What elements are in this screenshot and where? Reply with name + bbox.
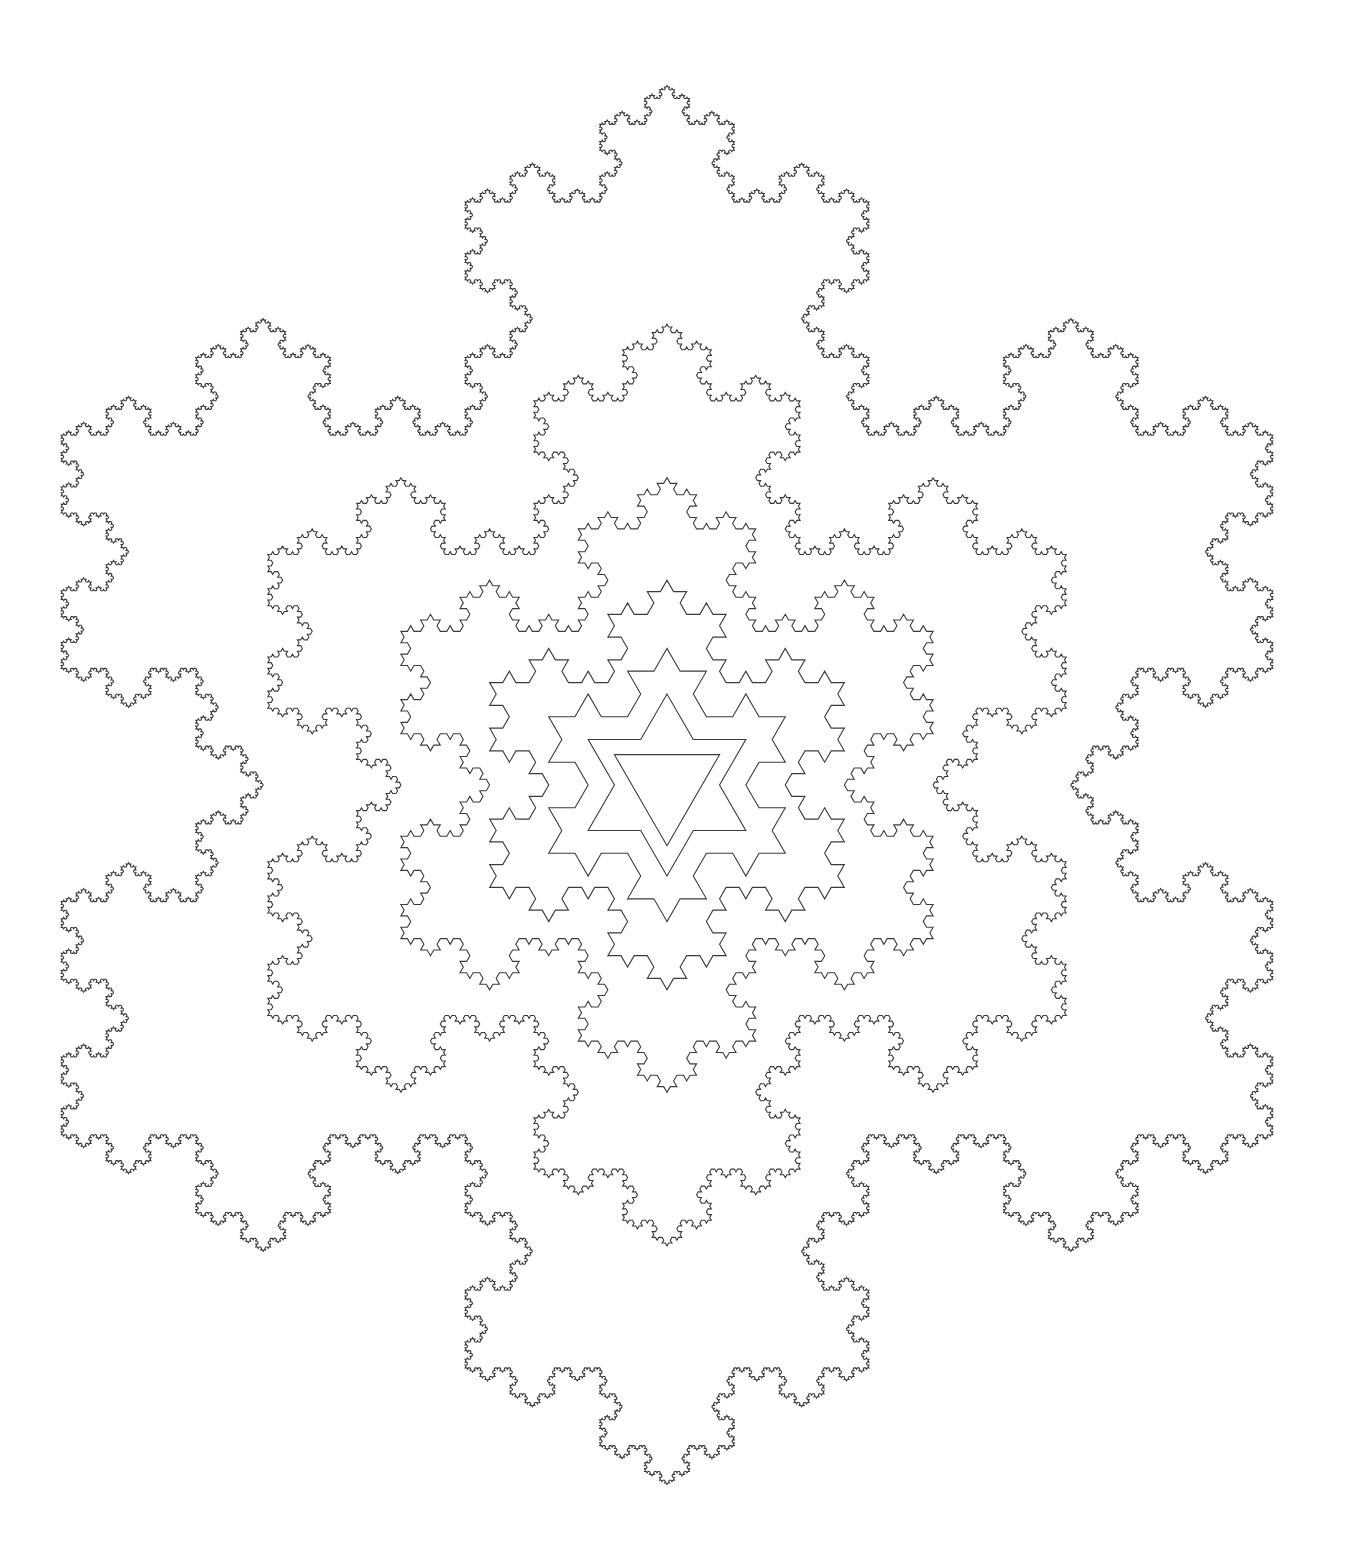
koch-snowflake-figure	[0, 0, 1345, 1568]
background	[0, 0, 1345, 1568]
